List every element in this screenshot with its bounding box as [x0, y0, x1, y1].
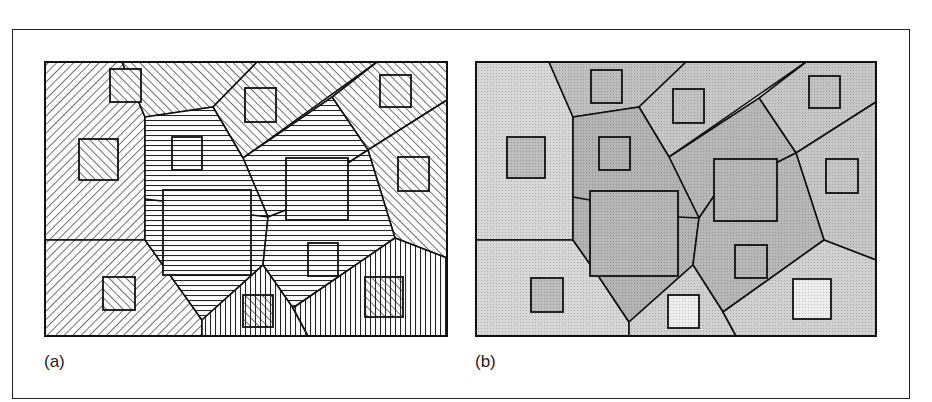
- panel-b-layer: [476, 62, 876, 336]
- site-square: [308, 243, 338, 276]
- site-square: [245, 88, 276, 122]
- site-square: [110, 69, 141, 102]
- site-square: [172, 137, 202, 170]
- site-square: [103, 277, 135, 310]
- panel-a-voronoi-map: [0, 0, 932, 402]
- panel-b-label: (b): [475, 352, 496, 372]
- site-square: [79, 139, 118, 180]
- site-square: [163, 190, 251, 275]
- panel-a-label: (a): [44, 352, 65, 372]
- site-square: [380, 75, 411, 107]
- panel-a-layer: [45, 62, 447, 336]
- site-square: [398, 157, 429, 191]
- site-square: [286, 158, 348, 220]
- cell-edge: [678, 217, 699, 218]
